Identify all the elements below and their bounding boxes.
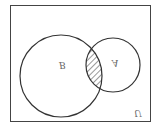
set-a-label: A [111,58,119,68]
set-b-label: B [58,60,66,70]
universe-label: U [134,108,142,118]
venn-diagram: B A U [0,0,159,131]
venn-svg: B A U [0,0,159,131]
